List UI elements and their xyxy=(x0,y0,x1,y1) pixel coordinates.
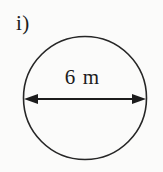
arrowhead-right-icon xyxy=(132,94,146,104)
circle-diameter-figure: i) 6 m xyxy=(0,0,163,172)
arrowhead-left-icon xyxy=(24,94,38,104)
figure-item-label: i) xyxy=(16,11,30,35)
diameter-measurement-label: 6 m xyxy=(0,64,163,90)
